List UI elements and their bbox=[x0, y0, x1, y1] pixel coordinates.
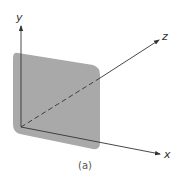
figure-caption: (a) bbox=[78, 160, 92, 171]
y-axis-label: y bbox=[15, 11, 23, 24]
z-axis bbox=[100, 40, 159, 78]
coordinate-system-diagram: y z x (a) bbox=[0, 0, 183, 187]
shaded-plane bbox=[13, 53, 100, 149]
z-axis-label: z bbox=[161, 30, 168, 43]
x-axis-label: x bbox=[163, 148, 171, 161]
